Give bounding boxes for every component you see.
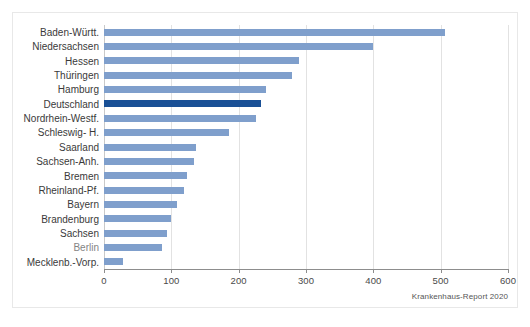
category-label-6: Nordrhein-Westf. <box>0 111 99 126</box>
category-label-15: Berlin <box>0 240 99 255</box>
bar-2 <box>104 57 299 64</box>
bar-5 <box>104 100 261 107</box>
gridline-600 <box>508 25 509 269</box>
bar-9 <box>104 158 194 165</box>
category-label-2: Hessen <box>0 54 99 69</box>
category-label-11: Rheinland-Pf. <box>0 183 99 198</box>
bar-6 <box>104 115 256 122</box>
bar-8 <box>104 144 196 151</box>
category-label-12: Bayern <box>0 197 99 212</box>
category-label-13: Brandenburg <box>0 212 99 227</box>
bar-10 <box>104 172 187 179</box>
x-tick-label: 0 <box>101 275 106 286</box>
bar-0 <box>104 29 445 36</box>
category-label-14: Sachsen <box>0 226 99 241</box>
x-tick-label: 400 <box>365 275 381 286</box>
x-tick-label: 200 <box>231 275 247 286</box>
category-label-1: Niedersachsen <box>0 39 99 54</box>
category-label-10: Bremen <box>0 169 99 184</box>
category-label-0: Baden-Württ. <box>0 25 99 40</box>
bar-14 <box>104 230 167 237</box>
x-tick-500 <box>441 269 442 273</box>
category-axis-labels: Baden-Württ.NiedersachsenHessenThüringen… <box>0 25 99 269</box>
x-tick-0 <box>104 269 105 273</box>
bar-15 <box>104 244 162 251</box>
x-tick-400 <box>373 269 374 273</box>
category-label-3: Thüringen <box>0 68 99 83</box>
x-tick-100 <box>171 269 172 273</box>
bar-16 <box>104 258 123 265</box>
bar-11 <box>104 187 184 194</box>
x-tick-600 <box>508 269 509 273</box>
x-tick-label: 100 <box>163 275 179 286</box>
source-note: Krankenhaus-Report 2020 <box>412 292 508 301</box>
category-label-16: Mecklenb.-Vorp. <box>0 255 99 270</box>
bar-13 <box>104 215 171 222</box>
bar-4 <box>104 86 266 93</box>
bar-3 <box>104 72 292 79</box>
bar-series <box>104 25 508 269</box>
category-label-4: Hamburg <box>0 82 99 97</box>
category-label-9: Sachsen-Anh. <box>0 154 99 169</box>
chart-figure: 0100200300400500600 Baden-Württ.Niedersa… <box>0 0 530 327</box>
x-tick-label: 500 <box>433 275 449 286</box>
category-label-7: Schleswig- H. <box>0 125 99 140</box>
x-tick-label: 300 <box>298 275 314 286</box>
category-label-8: Saarland <box>0 140 99 155</box>
x-tick-label: 600 <box>500 275 516 286</box>
x-tick-200 <box>239 269 240 273</box>
x-tick-300 <box>306 269 307 273</box>
bar-12 <box>104 201 177 208</box>
category-label-5: Deutschland <box>0 97 99 112</box>
bar-1 <box>104 43 373 50</box>
bar-7 <box>104 129 229 136</box>
